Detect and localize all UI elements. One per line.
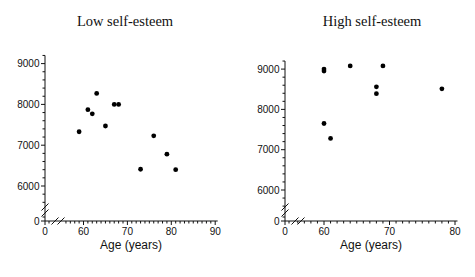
- x-tick-label: 80: [449, 226, 461, 237]
- high-self-esteem-plot-canvas: 060007000800090000607080: [237, 0, 475, 277]
- data-point: [173, 167, 178, 172]
- data-point: [381, 63, 386, 68]
- x-tick-label: 0: [282, 226, 288, 237]
- data-point: [374, 91, 379, 96]
- data-point: [440, 86, 445, 91]
- data-point: [138, 167, 143, 172]
- x-tick-label: 60: [318, 226, 330, 237]
- data-point: [322, 69, 327, 74]
- y-tick-label: 9000: [257, 64, 280, 75]
- data-point: [151, 133, 156, 138]
- y-tick-label: 8000: [257, 104, 280, 115]
- data-point: [165, 152, 170, 157]
- data-point: [112, 102, 117, 107]
- data-point: [374, 84, 379, 89]
- x-tick-label: 70: [122, 226, 134, 237]
- y-tick-label: 9000: [17, 58, 40, 69]
- x-axis-label-left: Age (years): [45, 238, 217, 252]
- y-tick-label: 6000: [17, 181, 40, 192]
- y-tick-label: 7000: [17, 140, 40, 151]
- data-point: [94, 91, 99, 96]
- data-point: [116, 102, 121, 107]
- data-point: [85, 107, 90, 112]
- x-tick-label: 0: [42, 226, 48, 237]
- data-point: [77, 129, 82, 134]
- y-tick-label: 7000: [257, 144, 280, 155]
- x-tick-label: 70: [384, 226, 396, 237]
- data-point: [348, 63, 353, 68]
- data-point: [322, 121, 327, 126]
- x-tick-label: 90: [210, 226, 222, 237]
- scatter-figure: Low self-esteem High self-esteem 0600070…: [0, 0, 475, 277]
- data-point: [90, 111, 95, 116]
- data-point: [103, 124, 108, 129]
- y-tick-label: 0: [34, 216, 40, 227]
- x-tick-label: 60: [78, 226, 90, 237]
- x-tick-label: 80: [166, 226, 178, 237]
- low-self-esteem-plot-canvas: 06000700080009000060708090: [0, 0, 237, 277]
- data-point: [328, 136, 333, 141]
- y-tick-label: 6000: [257, 185, 280, 196]
- y-tick-label: 8000: [17, 99, 40, 110]
- x-axis-label-right: Age (years): [285, 238, 457, 252]
- y-tick-label: 0: [274, 216, 280, 227]
